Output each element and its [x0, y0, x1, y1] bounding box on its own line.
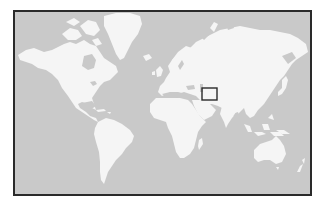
world-map — [13, 10, 312, 196]
world-map-svg — [15, 12, 310, 194]
